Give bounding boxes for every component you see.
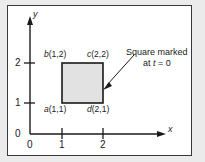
vertex-label-d: d(2,1) [87,105,109,114]
vertex-label-c: c(2,2) [87,50,109,59]
x-tick-label-2: 2 [100,140,106,150]
vertex-coords-c: (2,2) [91,49,108,59]
vertex-coords-a: (1,1) [49,104,66,114]
x-axis-label: x [168,125,173,134]
plot-canvas [8,6,191,155]
y-tick-label-1: 1 [15,98,21,108]
annotation-suffix: = 0 [155,58,170,68]
y-tick-label-2: 2 [15,58,21,68]
annotation-line-2: at t = 0 [126,58,188,69]
y-axis [27,16,33,134]
annotation-line-1: Square marked [126,47,188,58]
x-axis [30,131,166,137]
x-tick-label-0: 0 [27,140,33,150]
annotation-label: Square marked at t = 0 [126,47,188,70]
vertex-label-b: b(1,2) [44,50,66,59]
y-tick-label-0: 0 [15,129,21,139]
vertex-label-a: a(1,1) [44,105,66,114]
figure-panel: y x 2 1 0 0 1 2 b(1,2) c(2,2) a(1,1) d(2… [7,5,192,156]
vertex-coords-d: (2,1) [92,104,109,114]
annotation-prefix: at [143,58,153,68]
square-shape [62,63,103,103]
x-tick-label-1: 1 [59,140,65,150]
figure-root: y x 2 1 0 0 1 2 b(1,2) c(2,2) a(1,1) d(2… [0,0,205,162]
vertex-coords-b: (1,2) [49,49,66,59]
y-axis-label: y [33,10,38,19]
